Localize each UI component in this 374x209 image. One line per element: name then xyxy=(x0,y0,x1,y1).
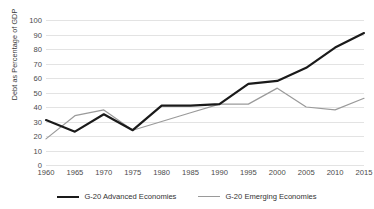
x-axis-tick-label: 1975 xyxy=(124,168,141,177)
legend-item-emerging[interactable]: G-20 Emerging Economies xyxy=(198,192,316,201)
series-line xyxy=(46,88,364,139)
gridline xyxy=(46,165,364,166)
y-axis-tick-label: 50 xyxy=(34,88,42,97)
series-line xyxy=(46,33,364,132)
x-axis-tick-label: 1985 xyxy=(182,168,199,177)
legend-label-advanced: G-20 Advanced Economies xyxy=(84,192,176,201)
legend-label-emerging: G-20 Emerging Economies xyxy=(225,192,316,201)
x-axis-tick-label: 1960 xyxy=(38,168,55,177)
y-axis-tick-label: 30 xyxy=(34,117,42,126)
y-axis-tick-label: 100 xyxy=(29,16,42,25)
series-lines xyxy=(46,20,364,165)
legend-line-advanced-icon xyxy=(57,196,79,198)
y-axis-tick-label: 80 xyxy=(34,45,42,54)
debt-gdp-line-chart: Debt as Percentage of GDP 01020304050607… xyxy=(0,0,374,209)
y-axis-tick-label: 40 xyxy=(34,103,42,112)
chart-legend: G-20 Advanced Economies G-20 Emerging Ec… xyxy=(0,192,374,201)
y-axis-tick-label: 60 xyxy=(34,74,42,83)
x-axis-tick-label: 2015 xyxy=(356,168,373,177)
y-axis-tick-label: 10 xyxy=(34,146,42,155)
y-axis-tick-label: 90 xyxy=(34,30,42,39)
x-axis-tick-label: 1970 xyxy=(95,168,112,177)
x-axis-tick-label: 2000 xyxy=(269,168,286,177)
plot-area: 0102030405060708090100 19601965197019751… xyxy=(46,20,364,165)
y-axis-tick-label: 20 xyxy=(34,132,42,141)
legend-item-advanced[interactable]: G-20 Advanced Economies xyxy=(57,192,176,201)
x-axis-tick-label: 1980 xyxy=(153,168,170,177)
x-axis-tick-label: 2010 xyxy=(327,168,344,177)
y-axis-tick-label: 70 xyxy=(34,59,42,68)
legend-line-emerging-icon xyxy=(198,196,220,197)
x-axis-tick-label: 1990 xyxy=(211,168,228,177)
x-axis-tick-label: 1965 xyxy=(66,168,83,177)
x-axis-tick-label: 2005 xyxy=(298,168,315,177)
y-axis-title: Debt as Percentage of GDP xyxy=(10,0,19,121)
x-axis-tick-label: 1995 xyxy=(240,168,257,177)
